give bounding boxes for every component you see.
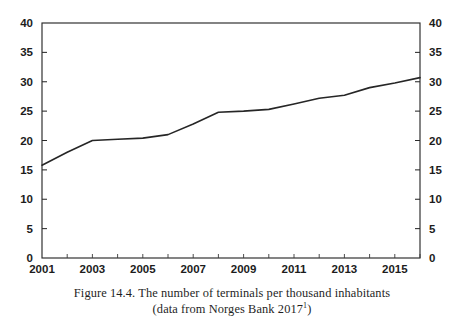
y-tick-label-right: 15 bbox=[429, 164, 442, 176]
caption-line-1: Figure 14.4. The number of terminals per… bbox=[0, 286, 464, 302]
y-tick-label-left: 30 bbox=[20, 76, 33, 88]
line-chart: 0510152025303540 0510152025303540 200120… bbox=[0, 0, 464, 283]
x-axis-ticks bbox=[67, 254, 420, 258]
caption-source-prefix: (data from Norges Bank 2017 bbox=[153, 302, 303, 316]
y-tick-label-right: 20 bbox=[429, 135, 442, 147]
y-tick-label-right: 0 bbox=[429, 252, 435, 264]
y-axis-labels-right: 0510152025303540 bbox=[429, 17, 442, 264]
y-tick-label-right: 30 bbox=[429, 76, 442, 88]
y-tick-label-right: 35 bbox=[429, 46, 442, 58]
y-tick-label-left: 10 bbox=[20, 193, 33, 205]
y-tick-label-right: 25 bbox=[429, 105, 442, 117]
x-tick-label: 2003 bbox=[80, 263, 106, 275]
x-tick-label: 2013 bbox=[332, 263, 358, 275]
x-tick-label: 2007 bbox=[180, 263, 206, 275]
caption-source-suffix: ) bbox=[307, 302, 311, 316]
figure-caption: Figure 14.4. The number of terminals per… bbox=[0, 286, 464, 318]
x-axis-labels: 20012003200520072009201120132015 bbox=[29, 263, 408, 275]
y-tick-label-right: 40 bbox=[429, 17, 442, 29]
y-tick-label-left: 40 bbox=[20, 17, 33, 29]
caption-line-2: (data from Norges Bank 20171) bbox=[0, 302, 464, 318]
y-tick-label-right: 10 bbox=[429, 193, 442, 205]
x-tick-label: 2001 bbox=[29, 263, 55, 275]
chart-area: 0510152025303540 0510152025303540 200120… bbox=[0, 0, 464, 283]
y-tick-label-left: 20 bbox=[20, 135, 33, 147]
x-tick-label: 2015 bbox=[382, 263, 408, 275]
x-tick-label: 2005 bbox=[130, 263, 156, 275]
y-tick-label-left: 5 bbox=[27, 223, 34, 235]
x-tick-label: 2011 bbox=[282, 263, 308, 275]
x-tick-label: 2009 bbox=[231, 263, 257, 275]
y-axis-labels-left: 0510152025303540 bbox=[20, 17, 33, 264]
y-tick-label-right: 5 bbox=[429, 223, 436, 235]
y-tick-label-left: 15 bbox=[20, 164, 33, 176]
figure-container: 0510152025303540 0510152025303540 200120… bbox=[0, 0, 464, 321]
y-tick-label-left: 35 bbox=[20, 46, 33, 58]
data-series-line bbox=[42, 78, 420, 166]
y-tick-label-left: 25 bbox=[20, 105, 33, 117]
